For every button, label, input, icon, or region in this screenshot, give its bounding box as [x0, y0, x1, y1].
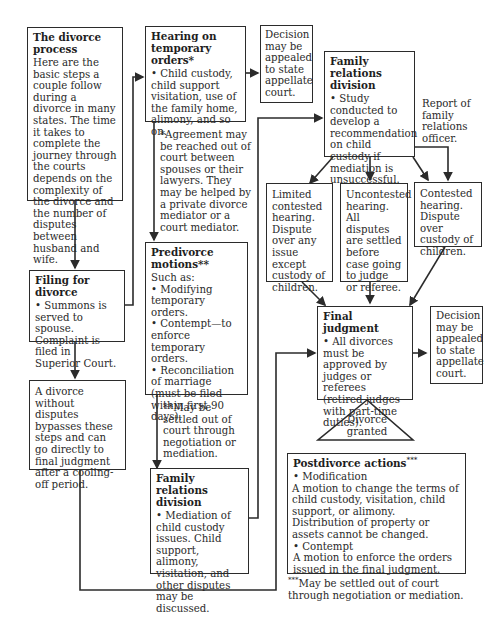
predivorce-motions-box: Predivorce motions** Such as: • Modifyin…: [145, 242, 248, 395]
frd-top-body: • Study conducted to develop a recommend…: [330, 93, 409, 186]
family-relations-division-mediation-box: Family relations division • Mediation of…: [150, 468, 249, 574]
final-judgment-box: Final judgment • All divorces must be ap…: [317, 306, 413, 400]
contested-text: Contested hearing. Dispute over custody …: [420, 188, 476, 258]
divorce-granted-label: Divorce granted: [344, 414, 390, 437]
appeal-top-box: Decision may be appealed to state appell…: [260, 25, 313, 103]
uncontested-hearing-box: Uncontested hearing. All disputes are se…: [340, 183, 408, 282]
postdivorce-con-body: A motion to enforce the orders issued in…: [293, 552, 460, 575]
hearing-body: • Child custody, child support visitatio…: [151, 68, 240, 138]
appeal-top-text: Decision may be appealed to state appell…: [265, 29, 308, 99]
predivorce-item: • Modifying temporary orders.: [151, 284, 242, 319]
hearing-footnote: *Agreement may be reached out of court b…: [160, 129, 252, 233]
final-title: Final judgment: [323, 310, 407, 334]
appeal-final-box: Decision may be appealed to state appell…: [430, 306, 483, 384]
postdivorce-footnote-mark: ***: [288, 576, 299, 584]
postdivorce-title-mark: ***: [406, 455, 417, 464]
hearing-temporary-orders-box: Hearing on temporary orders* • Child cus…: [145, 26, 246, 122]
postdivorce-actions-box: Postdivorce actions*** • Modification A …: [287, 453, 466, 574]
frd-top-title: Family relations division: [330, 55, 409, 91]
predivorce-intro: Such as:: [151, 272, 242, 284]
bypass-box: A divorce without disputes bypasses thes…: [29, 380, 126, 470]
predivorce-footnote: **May be settled out of court through ne…: [163, 402, 245, 460]
contested-hearing-box: Contested hearing. Dispute over custody …: [414, 182, 482, 247]
appeal-final-text: Decision may be appealed to state appell…: [436, 310, 477, 380]
postdivorce-footnote-text: May be settled out of court through nego…: [288, 578, 464, 601]
postdivorce-title: Postdivorce actions***: [293, 457, 460, 469]
postdivorce-mod-head: • Modification: [293, 471, 460, 483]
postdivorce-footnote: ***May be settled out of court through n…: [288, 578, 478, 601]
filing-box: Filing for divorce • Summons is served t…: [29, 270, 125, 342]
postdivorce-title-text: Postdivorce actions: [293, 457, 406, 469]
filing-title: Filing for divorce: [35, 274, 119, 298]
predivorce-item: • Contempt—to enforce temporary orders.: [151, 318, 242, 364]
intro-title: The divorce process: [33, 31, 117, 55]
intro-box: The divorce process Here are the basic s…: [27, 27, 123, 201]
filing-body: • Summons is served to spouse. Complaint…: [35, 300, 119, 370]
report-note: Report of family relations officer.: [422, 98, 484, 144]
limited-contested-hearing-box: Limited contested hearing. Dispute over …: [266, 183, 333, 282]
predivorce-title: Predivorce motions**: [151, 246, 242, 270]
frd-bottom-title: Family relations division: [156, 472, 243, 508]
postdivorce-con-head: • Contempt: [293, 541, 460, 553]
intro-body: Here are the basic steps a couple follow…: [33, 57, 117, 266]
uncontested-text: Uncontested hearing. All disputes are se…: [346, 189, 402, 293]
postdivorce-mod-body: A motion to change the terms of child cu…: [292, 483, 460, 541]
limited-text: Limited contested hearing. Dispute over …: [272, 189, 327, 293]
frd-bottom-body: • Mediation of child custody issues. Chi…: [156, 510, 243, 614]
hearing-title: Hearing on temporary orders*: [151, 30, 240, 66]
bypass-body: A divorce without disputes bypasses thes…: [35, 386, 120, 490]
family-relations-division-study-box: Family relations division • Study conduc…: [324, 51, 415, 157]
